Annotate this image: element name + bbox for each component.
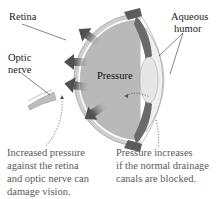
lens	[140, 57, 158, 103]
optic-nerve	[28, 90, 56, 110]
right-caption-line: canals are blocked.	[116, 172, 209, 185]
left-caption: Increased pressure against the retina an…	[7, 146, 89, 198]
aqueous-humor-label-line2: humor	[174, 23, 201, 35]
left-caption-line: and optic nerve can	[7, 172, 89, 185]
right-caption: Pressure increases if the normal drainag…	[116, 146, 209, 185]
callout-arrowhead-icon	[60, 95, 64, 99]
retina-label: Retina	[9, 11, 36, 23]
optic-nerve-label-line1: Optic	[8, 52, 31, 64]
left-caption-line: against the retina	[7, 159, 89, 172]
right-caption-line: if the normal drainage	[116, 159, 209, 172]
left-caption-line: Increased pressure	[7, 146, 89, 159]
pressure-label: Pressure	[97, 70, 133, 81]
optic-nerve-label-line2: nerve	[8, 64, 31, 76]
right-caption-line: Pressure increases	[116, 146, 209, 159]
left-caption-line: damage vision.	[7, 185, 89, 198]
aqueous-humor-label-line1: Aqueous	[171, 11, 208, 23]
